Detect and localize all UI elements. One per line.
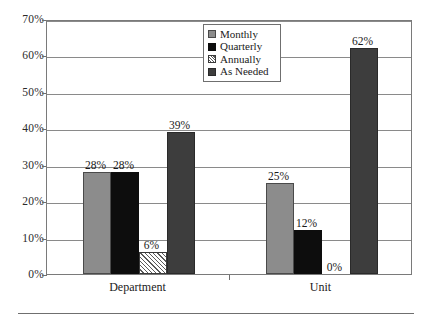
y-axis-tick-label: 20% xyxy=(4,196,44,207)
bar-value-label: 28% xyxy=(104,159,144,171)
bar-value-label: 25% xyxy=(259,170,299,182)
bar-monthly-department xyxy=(83,172,111,274)
legend-item-label: Annually xyxy=(220,54,261,65)
bar-chart: 0%10%20%30%40%50%60%70% DepartmentUnit 2… xyxy=(0,0,431,327)
y-axis-tick-label: 70% xyxy=(4,14,44,25)
legend-swatch-icon xyxy=(208,68,216,76)
legend-item: Monthly xyxy=(208,28,276,40)
bottom-divider xyxy=(18,313,414,314)
bar-value-label: 6% xyxy=(132,239,172,251)
y-axis-tick-mark xyxy=(42,275,47,276)
bar-as-needed-unit xyxy=(350,48,378,274)
legend-swatch-icon xyxy=(208,43,216,51)
legend-item: As Needed xyxy=(208,66,276,78)
bar-value-label: 12% xyxy=(287,217,327,229)
legend-item-label: Monthly xyxy=(220,29,258,40)
x-axis-category-label: Department xyxy=(78,281,198,294)
y-axis-tick-label: 10% xyxy=(4,233,44,244)
x-axis-category-label: Unit xyxy=(261,281,381,294)
y-axis-tick-label: 0% xyxy=(4,269,44,280)
bar-quarterly-department xyxy=(111,172,139,274)
gridline xyxy=(47,21,411,22)
bar-as-needed-department xyxy=(167,132,195,274)
y-axis-tick-label: 30% xyxy=(4,160,44,171)
legend-swatch-icon xyxy=(208,55,216,63)
bar-annually-department xyxy=(139,252,167,274)
bar-value-label: 0% xyxy=(315,261,355,273)
y-axis-tick-label: 60% xyxy=(4,50,44,61)
legend-item: Annually xyxy=(208,53,276,65)
chart-legend: MonthlyQuarterlyAnnuallyAs Needed xyxy=(203,24,281,82)
x-axis-tick-mark xyxy=(229,275,230,280)
bar-value-label: 62% xyxy=(343,35,383,47)
legend-item-label: Quarterly xyxy=(220,41,262,52)
y-axis-tick-label: 50% xyxy=(4,87,44,98)
bar-value-label: 39% xyxy=(160,119,200,131)
legend-item: Quarterly xyxy=(208,41,276,53)
legend-swatch-icon xyxy=(208,30,216,38)
y-axis: 0%10%20%30%40%50%60%70% xyxy=(0,20,44,275)
legend-item-label: As Needed xyxy=(220,66,269,77)
y-axis-tick-label: 40% xyxy=(4,123,44,134)
